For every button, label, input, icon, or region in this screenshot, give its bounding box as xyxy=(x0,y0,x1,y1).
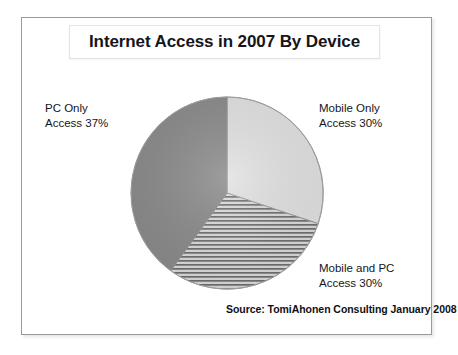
scanned-page: Internet Access in 2007 By Device xyxy=(0,0,458,355)
pie-label-mobile-only-line2: Access 30% xyxy=(319,116,382,131)
pie-label-mobile-and-pc: Mobile and PC Access 30% xyxy=(319,261,394,291)
page-title: Internet Access in 2007 By Device xyxy=(89,32,360,52)
pie-label-pc-only-line2: Access 37% xyxy=(45,116,108,131)
pie-label-mobile-and-pc-line2: Access 30% xyxy=(319,276,394,291)
pie-label-pc-only: PC Only Access 37% xyxy=(45,101,108,131)
slide-frame: Internet Access in 2007 By Device xyxy=(21,17,432,335)
title-box: Internet Access in 2007 By Device xyxy=(69,25,380,59)
pie-label-pc-only-line1: PC Only xyxy=(45,101,108,116)
pie-chart xyxy=(130,96,324,290)
pie-paper-shading xyxy=(131,97,323,289)
pie-label-mobile-only: Mobile Only Access 30% xyxy=(319,101,382,131)
pie-label-mobile-and-pc-line1: Mobile and PC xyxy=(319,261,394,276)
pie-label-mobile-only-line1: Mobile Only xyxy=(319,101,382,116)
pie-chart-svg xyxy=(130,96,324,290)
source-note: Source: TomiAhonen Consulting January 20… xyxy=(226,303,457,315)
